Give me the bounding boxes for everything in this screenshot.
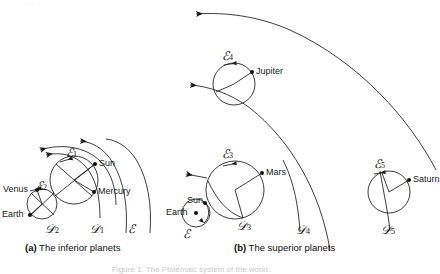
panel-b-mars-dot [260, 171, 264, 175]
panel-b-jupiter-dot [250, 70, 254, 74]
panel-b-label-ecliptic: ℰ [183, 228, 190, 240]
panel-a-mercury-dot [92, 190, 96, 194]
panel-b-epicycle-3-left-arrow [186, 174, 207, 178]
panel-b-label-mars: Mars [266, 168, 286, 177]
panel-b-label-epicycle-4: ℰ4 [222, 50, 233, 62]
panel-a-label-deferent-1: 𝒟1 [90, 223, 104, 235]
panel-a-label-earth: Earth [2, 210, 24, 219]
panel-a-deferent-2-subscript: 2 [55, 226, 59, 235]
panel-a-deferent-1-subscript: 1 [100, 226, 104, 235]
panel-a-deferent-1-symbol: 𝒟 [90, 222, 100, 236]
panel-b-epicycle-3-subscript: 3 [229, 151, 233, 160]
panel-a-outer-sweep-arc [40, 147, 116, 205]
panel-a-epicycle-1-subscript: 1 [73, 150, 77, 159]
panel-b-deferent-5-symbol: 𝒟 [381, 223, 391, 237]
panel-b-ecliptic-direction-arrow [200, 219, 203, 222]
panel-b-deferent-4-subscript: 4 [306, 227, 310, 236]
panel-b-epicycle-3-direction-arrow [223, 163, 237, 166]
panel-b-caption-text: The superior planets [249, 242, 336, 253]
panel-b-epicycle-5-subscript: 5 [381, 161, 385, 170]
panel-b-caption-tag: (b) [234, 242, 246, 253]
panel-a-caption-tag: (a) [25, 242, 37, 253]
panel-a-caption-text: The inferior planets [39, 242, 120, 253]
panel-b-epicycle-4-radius-center [216, 84, 234, 92]
panel-b-caption: (b) The superior planets [234, 243, 335, 253]
panel-b-label-deferent-4: 𝒟4 [296, 224, 310, 236]
panel-a-epicycle-2-subscript: 2 [43, 183, 47, 192]
panel-b-label-sun: Sun [187, 196, 203, 205]
panel-b-outer-arc-saturn [196, 14, 436, 170]
panel-a-label-deferent-2: 𝒟2 [45, 223, 59, 235]
panel-a-label-venus: Venus [3, 185, 28, 194]
panel-a-caption: (a) The inferior planets [25, 243, 120, 253]
panel-a-epicycle-1-symbol: ℰ [66, 146, 73, 160]
panel-b-epicycle-4-subscript: 4 [229, 53, 233, 62]
panel-a-label-ecliptic: ℰ [128, 223, 135, 235]
panel-b-deferent-5-subscript: 5 [391, 227, 395, 236]
panel-b-epicycle-5-symbol: ℰ [374, 157, 381, 171]
panel-b-epicycle-3-symbol: ℰ [222, 147, 229, 161]
panel-a-deferent-2-symbol: 𝒟 [45, 222, 55, 236]
figure-caption-clipped: Figure 1. The Ptolemaic system of the wo… [112, 265, 270, 274]
panel-b-label-epicycle-3: ℰ3 [222, 148, 233, 160]
panel-a-epicycle-1-radius-mercury [74, 180, 94, 192]
panel-b-label-jupiter: Jupiter [256, 67, 283, 76]
page-bleed-top: · · · [28, 0, 40, 9]
panel-b-epicycle-4-symbol: ℰ [222, 49, 229, 63]
panel-a-label-epicycle-2: ℰ2 [36, 180, 47, 192]
panel-b-label-earth: Earth [166, 208, 188, 217]
panel-b-label-saturn: Saturn [413, 175, 440, 184]
panel-a-label-sun: Sun [99, 159, 115, 168]
panel-b-epicycle-3-radius-mars [235, 173, 262, 190]
panel-a-sun-dot [93, 162, 97, 166]
panel-b-epicycle-5-radius-saturn [389, 180, 409, 192]
panel-a-earth-dot [28, 213, 32, 217]
panel-b-label-deferent-5: 𝒟5 [381, 224, 395, 236]
panel-a-label-epicycle-1: ℰ1 [66, 147, 77, 159]
panel-b-epicycle-3-radius-lower [235, 190, 243, 218]
panel-b-epicycle-4-radius-jupiter [234, 72, 252, 84]
panel-b-label-deferent-3: 𝒟3 [237, 220, 251, 232]
panel-b-saturn-dot [407, 178, 411, 182]
body-dots-group [28, 70, 411, 217]
panel-b-label-epicycle-5: ℰ5 [374, 158, 385, 170]
panel-a-epicycle-2-symbol: ℰ [36, 179, 43, 193]
panel-b-deferent-4-symbol: 𝒟 [296, 223, 306, 237]
panel-b-sun-dot [203, 201, 207, 205]
panel-b-deferent-3-subscript: 3 [247, 223, 251, 232]
panel-a-label-mercury: Mercury [98, 187, 131, 196]
panel-b-deferent-3-symbol: 𝒟 [237, 219, 247, 233]
panel-b-earth-dot [194, 211, 198, 215]
